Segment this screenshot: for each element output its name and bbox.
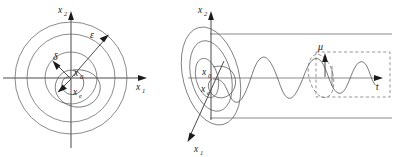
right-x2-axis (208, 11, 214, 120)
delta-radius-arrow (53, 61, 72, 80)
right-xe-label: x (200, 84, 206, 94)
t-axis-label: t (376, 82, 379, 92)
left-x1-axis-label-group: x 1 (135, 82, 145, 94)
final-cross-section-ellipse (304, 52, 338, 100)
damped-oscillation-curve (213, 57, 377, 102)
left-x2-axis-label: x (57, 5, 63, 15)
epsilon-label: ε (90, 29, 94, 40)
figure-root: ε δ x 0 x e x 2 x 1 (0, 0, 394, 157)
left-x2-axis-label-group: x 2 (57, 5, 68, 17)
delta-label: δ (53, 51, 58, 62)
right-x1-axis-subscript: 1 (200, 149, 203, 156)
right-x1-axis-label-group: x 1 (193, 144, 203, 156)
right-x2-axis-label-group: x 2 (197, 5, 208, 17)
right-x0-label-group: x 0 (201, 67, 212, 79)
xe-subscript: e (79, 92, 82, 99)
right-x1-axis-label: x (193, 144, 199, 154)
mu-label: μ (317, 41, 323, 52)
xe-label-group: x e (72, 87, 82, 99)
left-x2-axis-subscript: 2 (64, 10, 68, 17)
right-xe-subscript: e (207, 89, 210, 96)
left-panel-phase-plane: ε δ x 0 x e x 2 x 1 (0, 0, 180, 157)
mu-bound-dashed-box (316, 52, 390, 97)
right-x0-label: x (201, 67, 207, 77)
left-x1-axis-label: x (135, 82, 141, 92)
xe-label: x (72, 87, 78, 97)
left-x1-axis-subscript: 1 (142, 87, 145, 94)
x0-label: x (73, 68, 79, 78)
right-panel-trajectory-tube: μ x 0 x e x 2 x 1 t (180, 0, 394, 157)
right-x2-axis-subscript: 2 (204, 10, 208, 17)
equilibrium-pointer-arrow (58, 79, 72, 93)
right-x2-axis-label: x (197, 5, 203, 15)
